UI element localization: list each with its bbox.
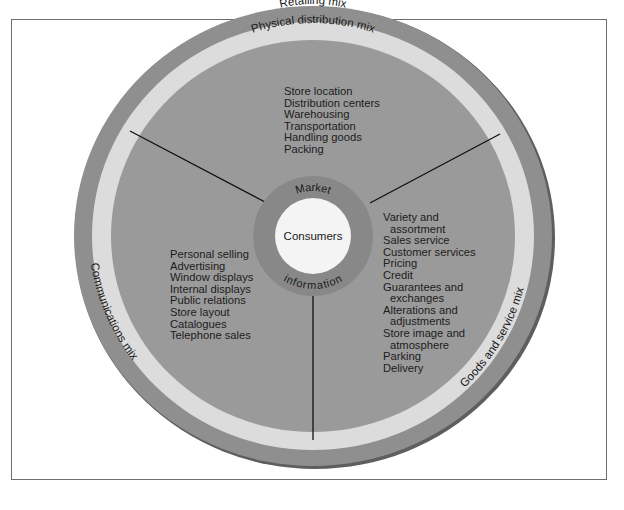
retailing-mix-diagram: Retailing mix Physical distribution mix … — [0, 0, 624, 510]
list-item: Store image and — [383, 328, 476, 340]
list-item: Variety and — [383, 212, 476, 224]
list-item-continuation: exchanges — [383, 293, 476, 305]
consumers-label: Consumers — [284, 230, 343, 242]
list-item: Parking — [383, 351, 476, 363]
list-item: Delivery — [383, 363, 476, 375]
list-item: Packing — [284, 144, 380, 156]
list-item: Store layout — [170, 307, 253, 319]
communications-list: Personal selling Advertising Window disp… — [170, 249, 253, 342]
list-item: Telephone sales — [170, 330, 253, 342]
list-item: Credit — [383, 270, 476, 282]
physical-distribution-list: Store location Distribution centers Ware… — [284, 86, 380, 156]
list-item: Store location — [284, 86, 380, 98]
goods-and-service-list: Variety and assortment Sales service Cus… — [383, 212, 476, 374]
list-item: Personal selling — [170, 249, 253, 261]
